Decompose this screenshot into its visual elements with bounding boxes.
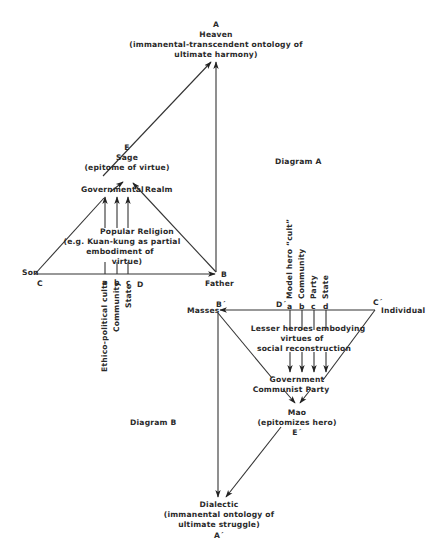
node-a-desc1: (immanental-transcendent ontology of (129, 40, 302, 50)
node-d-prime-letter: D´ (276, 300, 287, 310)
node-b-name: Father (205, 279, 234, 289)
popular-religion-line2: (e.g. Kuan-kung as partial (63, 237, 180, 247)
node-e-prime-desc: (epitomizes hero) (257, 418, 336, 428)
popular-religion-line4: virtue) (112, 257, 142, 267)
node-a-prime-desc2: ultimate struggle) (178, 520, 260, 530)
tick-a-prime-letter: a (287, 302, 292, 312)
government-line1: Government (270, 375, 325, 385)
node-a-prime-desc1: (immanental ontology of (164, 510, 274, 520)
governmental-word: Governmental (81, 185, 144, 195)
lesser-heroes-line1: Lesser heroes embodying (251, 324, 366, 334)
tick-a-label: Ethico-political cults (100, 280, 109, 372)
node-c-letter: C (37, 279, 43, 289)
tick-a-prime-label: Model hero “cult” (285, 219, 294, 299)
lesser-heroes-line3: social reconstruction (257, 344, 351, 354)
node-c-name: Son (22, 268, 39, 278)
tick-d-prime-label: State (321, 275, 330, 299)
tick-b-label: Community (112, 282, 121, 332)
government-line2: Communist Party (253, 385, 330, 395)
node-e-letter: E (124, 143, 129, 153)
node-e-name: Sage (116, 153, 138, 163)
tick-b-prime-label: Community (297, 249, 306, 299)
lesser-heroes-line2: virtues of (280, 334, 323, 344)
node-e-prime-letter: E´ (292, 428, 301, 438)
popular-religion-line3: embodiment of (86, 247, 154, 257)
node-a-prime-name: Dialectic (200, 500, 239, 510)
node-b-prime-name: Masses (187, 306, 220, 316)
popular-religion-line1: Popular Religion (100, 227, 174, 237)
tick-c-label: State (124, 284, 133, 308)
node-e-desc: (epitome of virtue) (84, 163, 169, 173)
node-a-prime-letter: A´ (214, 531, 224, 541)
tick-b-prime-letter: b (299, 302, 305, 312)
diagram-a-title: Diagram A (275, 157, 322, 167)
line-mao-to-dialectic (226, 427, 281, 497)
node-a-name: Heaven (199, 30, 232, 40)
tick-c-prime-letter: c (311, 302, 316, 312)
node-d-letter: D (137, 280, 144, 290)
node-e-prime-name: Mao (288, 408, 307, 418)
line-c-to-gov (35, 198, 104, 274)
node-c-prime-name: Individual (381, 306, 425, 316)
node-a-letter: A (213, 20, 219, 30)
node-a-desc2: ultimate harmony) (174, 50, 257, 60)
tick-d-prime-letter: d (323, 302, 329, 312)
tick-c-prime-label: Party (309, 275, 318, 299)
diagram-b-title: Diagram B (130, 418, 176, 428)
realm-word: Realm (145, 185, 173, 195)
